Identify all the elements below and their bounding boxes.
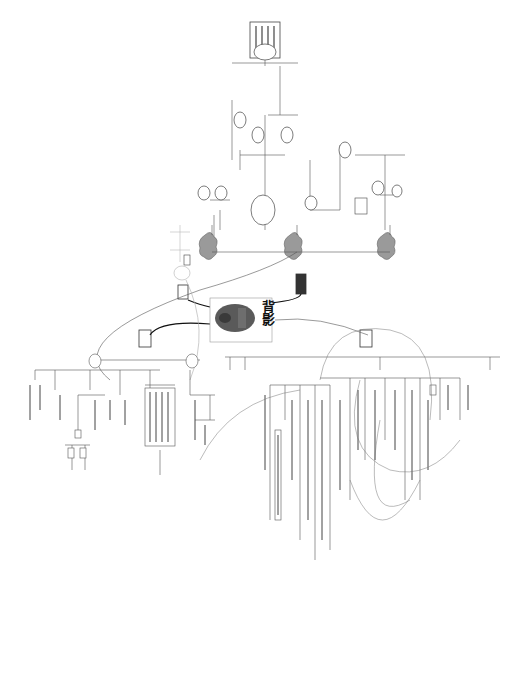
mindmap-canvas	[0, 0, 522, 699]
lower-right-tree	[225, 357, 500, 560]
faded-branch	[170, 225, 190, 265]
lower-left-text-blocks	[30, 385, 205, 445]
upper-tree-lines	[210, 63, 405, 255]
top-note-node[interactable]	[250, 22, 280, 66]
box-node	[355, 198, 367, 214]
central-topic-label: 背影	[258, 300, 277, 326]
lower-right-text-blocks	[265, 385, 468, 540]
cloud-nodes[interactable]	[199, 232, 395, 259]
